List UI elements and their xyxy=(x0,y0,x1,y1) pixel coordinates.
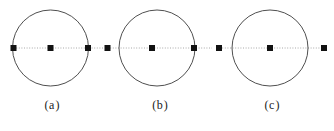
panel-a-marker-left-endpoint xyxy=(11,45,17,51)
panel-c-marker-left-endpoint xyxy=(216,45,222,51)
panel-c-marker-center-point xyxy=(267,45,273,51)
panel-a-marker-center-point xyxy=(48,45,54,51)
panel-b-marker-right-endpoint xyxy=(191,45,197,51)
panel-b-marker-left-endpoint xyxy=(105,45,111,51)
figure-diagram-panels: (a) (b) (c) xyxy=(0,0,334,131)
figure-canvas xyxy=(0,0,334,131)
panel-a xyxy=(11,10,104,86)
panel-b-marker-center-point xyxy=(149,45,155,51)
panel-c xyxy=(216,10,327,86)
panel-a-marker-right-endpoint xyxy=(85,45,91,51)
panel-b xyxy=(105,10,213,86)
panel-c-marker-right-endpoint xyxy=(321,45,327,51)
